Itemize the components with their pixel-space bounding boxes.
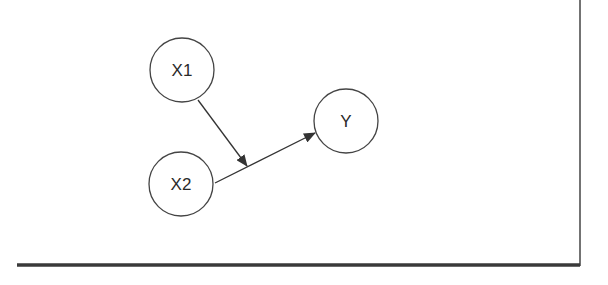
node-y: Y bbox=[314, 89, 378, 153]
node-y-label: Y bbox=[340, 112, 351, 131]
edge-x1-to-path bbox=[198, 100, 247, 166]
diagram-canvas: X1 X2 Y bbox=[0, 0, 608, 285]
node-x1: X1 bbox=[150, 38, 214, 102]
path-diagram: X1 X2 Y bbox=[0, 0, 608, 285]
node-x2-label: X2 bbox=[171, 175, 192, 194]
node-x1-label: X1 bbox=[172, 61, 193, 80]
edge-x2-to-y bbox=[215, 133, 315, 183]
node-x2: X2 bbox=[149, 152, 213, 216]
